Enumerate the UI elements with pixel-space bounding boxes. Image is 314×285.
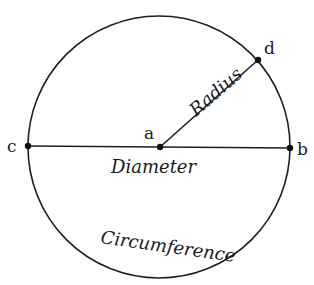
radius-label: Radius	[184, 63, 246, 121]
label-b: b	[297, 139, 308, 159]
point-c	[25, 143, 31, 149]
circle-diagram: c b a d Radius Diameter Circumference	[0, 0, 314, 285]
label-c: c	[7, 136, 17, 156]
circumference-label: Circumference	[99, 226, 236, 266]
circle-diagram-canvas: c b a d Radius Diameter Circumference	[0, 0, 314, 285]
diameter-label: Diameter	[110, 156, 198, 177]
point-a	[157, 144, 163, 150]
point-d	[255, 57, 261, 63]
label-d: d	[264, 38, 275, 58]
label-a: a	[144, 123, 154, 143]
point-b	[287, 145, 293, 151]
